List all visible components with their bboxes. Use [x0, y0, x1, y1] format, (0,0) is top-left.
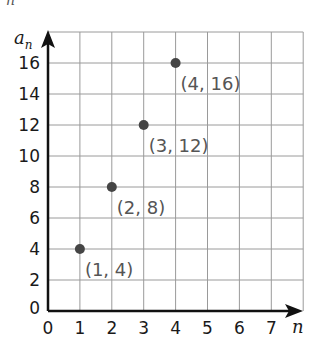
y-tick-label: 8: [29, 177, 40, 197]
y-tick-label: 10: [18, 146, 40, 166]
data-point-label: (4, 16): [181, 73, 241, 94]
y-tick-labels: 0246810121416: [18, 53, 40, 318]
x-tick-label: 7: [266, 318, 277, 338]
x-tick-label: 1: [74, 318, 85, 338]
x-tick-label: 0: [43, 318, 54, 338]
data-point-label: (1, 4): [85, 259, 133, 280]
x-axis-label: n: [292, 316, 304, 337]
data-points: (1, 4)(2, 8)(3, 12)(4, 16): [75, 58, 241, 280]
scatter-chart: 01234567 0246810121416 n an (1, 4)(2, 8)…: [0, 0, 318, 345]
data-point-marker: [107, 182, 117, 192]
x-tick-label: 5: [202, 318, 213, 338]
x-tick-labels: 01234567: [43, 318, 277, 338]
y-tick-label: 12: [18, 115, 40, 135]
x-tick-label: 3: [138, 318, 149, 338]
data-point-marker: [75, 244, 85, 254]
data-point-marker: [139, 120, 149, 130]
data-point-label: (2, 8): [117, 197, 165, 218]
y-tick-label: 4: [29, 239, 40, 259]
y-tick-label: 14: [18, 84, 40, 104]
y-tick-label: 2: [29, 270, 40, 290]
y-axis-label: an: [14, 27, 32, 52]
y-tick-label: 6: [29, 208, 40, 228]
y-tick-label: 16: [18, 53, 40, 73]
data-point-marker: [171, 58, 181, 68]
x-tick-label: 2: [106, 318, 117, 338]
x-tick-label: 6: [234, 318, 245, 338]
data-point-label: (3, 12): [149, 135, 209, 156]
y-tick-label: 0: [29, 298, 40, 318]
x-tick-label: 4: [170, 318, 181, 338]
